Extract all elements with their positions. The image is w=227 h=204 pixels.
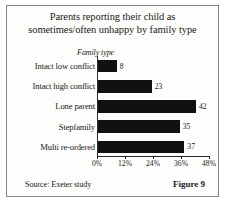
x-axis-ticks: 0%12%24%36%48% [97,157,210,171]
figure-frame: Parents reporting their child as sometim… [6,5,219,197]
source-text: Source: Exeter study [25,180,91,189]
category-label: Lone parent [55,101,95,111]
bar-value-label: 23 [155,82,163,91]
category-label: Intact high conflict [33,81,95,91]
bar-row: 8 [98,56,210,76]
bar [98,141,184,154]
category-label: Stepfamily [59,122,95,132]
category-row: Multi re-ordered [15,137,95,157]
bar-value-label: 8 [120,62,124,71]
figure-title: Parents reporting their child as sometim… [7,6,218,36]
chart-plot-wrapper: Intact low conflict Intact high conflict… [15,56,212,166]
category-label: Intact low conflict [35,61,95,71]
figure-title-line-2: sometimes/often unhappy by family type [13,24,212,37]
category-row: Intact high conflict [15,76,95,96]
bar-value-label: 42 [199,102,207,111]
category-labels-column: Intact low conflict Intact high conflict… [15,56,95,157]
x-tick-label: 0% [92,159,102,168]
category-row: Lone parent [15,96,95,116]
bar [98,120,180,133]
x-tick-label: 48% [202,159,216,168]
figure-footer: Source: Exeter study Figure 9 [7,179,218,189]
x-tick-label: 36% [174,159,188,168]
x-tick-label: 12% [118,159,132,168]
category-row: Stepfamily [15,117,95,137]
plot-area: 8 23 42 35 37 [97,56,210,157]
bar-row: 23 [98,76,210,96]
figure-number: Figure 9 [173,179,205,189]
category-label: Multi re-ordered [40,142,95,152]
bar-value-label: 37 [187,142,195,151]
figure-title-line-1: Parents reporting their child as [13,11,212,24]
bar-value-label: 35 [183,122,191,131]
bar [98,100,196,113]
bar-row: 37 [98,137,210,157]
category-row: Intact low conflict [15,56,95,76]
bar [98,80,152,93]
x-tick-label: 24% [146,159,160,168]
bar-row: 35 [98,117,210,137]
bar-row: 42 [98,96,210,116]
bar [98,60,117,73]
